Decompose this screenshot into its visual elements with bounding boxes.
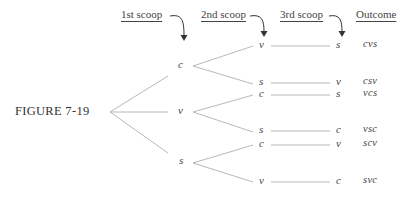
node-l2-sc: c: [259, 137, 264, 149]
node-l3-cvs: s: [336, 38, 340, 50]
node-l1-s: s: [179, 154, 183, 166]
node-l2-cv: v: [259, 38, 264, 50]
node-l3-vcs: s: [336, 87, 340, 99]
header-outcome: Outcome: [356, 8, 396, 20]
outcome-svc: svc: [363, 174, 377, 185]
arrow-2nd-scoop: [250, 16, 264, 32]
header-3rd-scoop: 3rd scoop: [280, 8, 323, 20]
node-l2-cs: s: [259, 75, 263, 87]
node-l2-sv: v: [259, 174, 264, 186]
outcome-csv: csv: [363, 75, 377, 86]
node-l1-c: c: [178, 58, 183, 70]
outcome-scv: scv: [363, 137, 377, 148]
node-l3-svc: c: [336, 174, 341, 186]
node-l3-vsc: c: [336, 123, 341, 135]
header-1st-scoop: 1st scoop: [121, 8, 162, 20]
tree-lines: [0, 0, 411, 201]
outcome-vcs: vcs: [363, 87, 377, 98]
outcome-vsc: vsc: [363, 123, 377, 134]
node-l1-v: v: [178, 104, 183, 116]
figure-label: FIGURE 7-19: [15, 104, 89, 119]
node-l2-vs: s: [259, 123, 263, 135]
node-l3-scv: v: [336, 137, 341, 149]
header-2nd-scoop: 2nd scoop: [201, 8, 246, 20]
arrow-1st-scoop: [170, 16, 184, 36]
node-l3-csv: v: [336, 75, 341, 87]
arrow-3rd-scoop: [329, 16, 342, 32]
outcome-cvs: cvs: [363, 38, 377, 49]
node-l2-vc: c: [259, 87, 264, 99]
